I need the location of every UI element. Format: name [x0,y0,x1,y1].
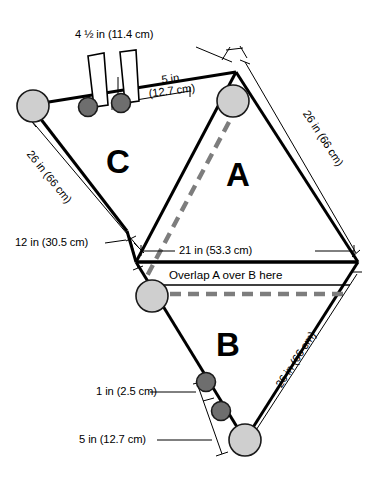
region-label-a: A [226,158,250,191]
dim-label-bottom-spacing-small: 1 in (2.5 cm) [96,385,157,397]
small-grommets [79,94,231,421]
dim-label-center-width: 21 in (53.3 cm) [179,244,252,256]
grommet-small-bottom-2 [212,402,231,421]
grommet-large-top-left [17,90,49,122]
region-label-b: B [216,328,240,361]
grommet-small-top-1 [79,98,98,117]
overlap-annotation: Overlap A over B here [169,268,282,281]
diagram-canvas: 4 ½ in (11.4 cm) 5 in (12.7 cm) 26 in (6… [0,0,387,499]
dim-label-left-short-edge: 12 in (30.5 cm) [15,236,88,248]
dim-label-bottom-spacing-large: 5 in (12.7 cm) [79,433,146,445]
region-label-c: C [106,145,130,178]
grommet-small-top-2 [112,94,131,113]
grommet-large-mid-left [136,280,168,312]
grommet-small-bottom-1 [197,373,216,392]
grommet-large-top-right [217,85,249,117]
grommet-large-bottom [229,424,261,456]
dim-label-top-strap-length: 4 ½ in (11.4 cm) [75,28,153,40]
